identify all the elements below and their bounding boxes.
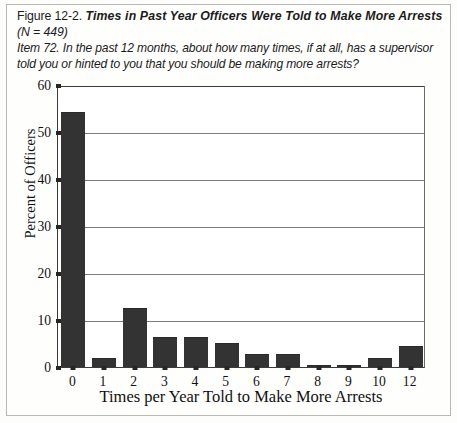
bar — [61, 112, 85, 367]
x-tick-mark — [255, 366, 260, 370]
plot-area — [57, 86, 425, 368]
x-tick-mark — [316, 366, 321, 370]
x-tick-mark — [132, 366, 137, 370]
x-tick-mark — [194, 366, 199, 370]
bar — [184, 337, 208, 367]
bar-chart: Percent of Officers 0102030405060 012345… — [0, 0, 457, 423]
y-tick-label: 30 — [9, 219, 51, 235]
bar-series — [58, 86, 424, 367]
y-tick-label: 20 — [9, 266, 51, 282]
bar — [123, 308, 147, 367]
x-tick-mark — [347, 366, 352, 370]
x-tick-mark — [163, 366, 168, 370]
y-tick-label: 60 — [9, 78, 51, 94]
x-tick-mark — [224, 366, 229, 370]
y-tick-label: 50 — [9, 125, 51, 141]
x-tick-mark — [102, 366, 107, 370]
x-tick-mark — [286, 366, 291, 370]
bar — [399, 346, 423, 367]
bar — [215, 343, 239, 368]
bar — [153, 337, 177, 367]
figure-page: Figure 12-2. Times in Past Year Officers… — [0, 0, 457, 423]
y-tick-label: 0 — [9, 360, 51, 376]
x-tick-mark — [408, 366, 413, 370]
y-tick-label: 10 — [9, 313, 51, 329]
y-tick-label: 40 — [9, 172, 51, 188]
x-axis-label: Times per Year Told to Make More Arrests — [57, 387, 425, 407]
x-tick-mark — [378, 366, 383, 370]
x-tick-mark — [71, 366, 76, 370]
